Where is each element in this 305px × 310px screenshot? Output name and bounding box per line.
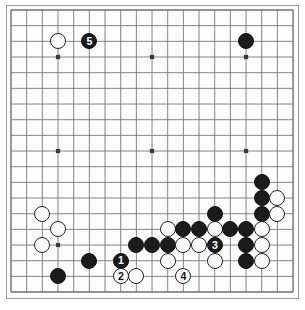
go-board-diagram: 53124 <box>0 0 305 310</box>
board-surface <box>6 5 299 299</box>
